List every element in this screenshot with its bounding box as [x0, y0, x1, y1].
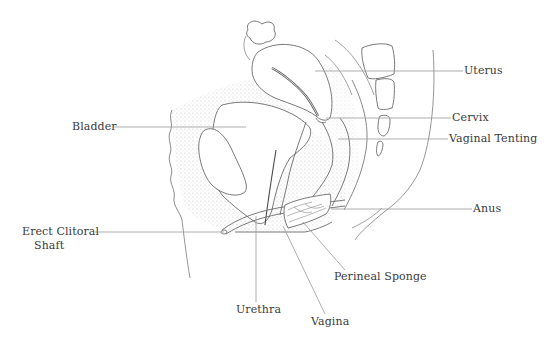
label-uterus: Uterus — [464, 64, 503, 77]
label-perineal-sponge: Perineal Sponge — [334, 270, 427, 283]
label-erect-clitoral-shaft-line2: Shaft — [34, 239, 64, 252]
label-anus: Anus — [473, 202, 501, 215]
label-bladder: Bladder — [72, 120, 117, 133]
thigh-line — [182, 220, 190, 278]
anatomy-diagram: Uterus Bladder Cervix Vaginal Tenting An… — [0, 0, 553, 343]
label-erect-clitoral-shaft: Erect Clitoral — [22, 225, 99, 238]
anatomy-illustration — [0, 0, 553, 343]
label-urethra: Urethra — [236, 303, 281, 316]
label-vagina: Vagina — [311, 315, 349, 328]
label-erect-clitoral-shaft-line1: Erect Clitoral — [22, 225, 99, 238]
ovary — [247, 21, 276, 44]
label-cervix: Cervix — [452, 111, 489, 124]
label-vaginal-tenting: Vaginal Tenting — [449, 132, 537, 145]
